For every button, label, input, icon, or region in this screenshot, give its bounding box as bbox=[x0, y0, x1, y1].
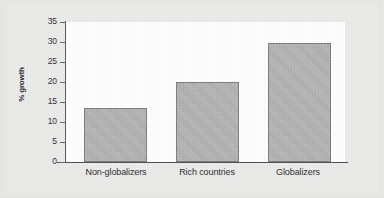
y-axis-tick-label: 20 bbox=[34, 77, 57, 87]
y-axis-tick-label-text: 0 bbox=[34, 157, 57, 166]
y-axis-tick-label: 5 bbox=[34, 137, 57, 147]
y-axis-title: % growth bbox=[17, 55, 26, 115]
y-axis-tick-label: 35 bbox=[34, 17, 57, 27]
x-axis-category-label: Non-globalizers bbox=[70, 167, 162, 177]
bar-chart-figure: 0 5 10 15 20 25 30 35 % growth Non-globa… bbox=[0, 0, 384, 198]
bar-rich-countries bbox=[176, 82, 239, 162]
x-axis-category-label: Globalizers bbox=[254, 167, 342, 177]
x-axis-category-label: Rich countries bbox=[163, 167, 251, 177]
y-axis-tick-label-text: 30 bbox=[34, 37, 57, 46]
y-axis-tick bbox=[60, 42, 65, 43]
y-axis-tick bbox=[60, 82, 65, 83]
y-axis-tick-label: 0 bbox=[34, 157, 57, 167]
y-axis-tick bbox=[60, 102, 65, 103]
bar-non-globalizers bbox=[84, 108, 147, 162]
y-axis-tick-label-text: 25 bbox=[34, 57, 57, 66]
y-axis-tick bbox=[60, 122, 65, 123]
y-axis-tick bbox=[60, 162, 65, 163]
bar-globalizers bbox=[268, 43, 331, 162]
y-axis-tick-label-text: 20 bbox=[34, 77, 57, 86]
y-axis-tick bbox=[60, 22, 65, 23]
y-axis-tick-label: 15 bbox=[34, 97, 57, 107]
y-axis-tick-label-text: 5 bbox=[34, 137, 57, 146]
y-axis-tick-label: 30 bbox=[34, 37, 57, 47]
y-axis-tick-label: 25 bbox=[34, 57, 57, 67]
y-axis-tick bbox=[60, 142, 65, 143]
y-axis-tick-label-text: 35 bbox=[34, 17, 57, 26]
y-axis-tick-label: 10 bbox=[34, 117, 57, 127]
y-axis-tick-label-text: 15 bbox=[34, 97, 57, 106]
x-axis-line bbox=[57, 162, 348, 163]
y-axis-line bbox=[65, 21, 66, 163]
y-axis-tick bbox=[60, 62, 65, 63]
y-axis-tick-label-text: 10 bbox=[34, 117, 57, 126]
